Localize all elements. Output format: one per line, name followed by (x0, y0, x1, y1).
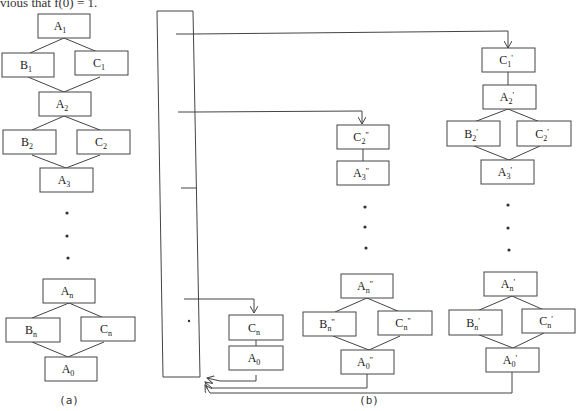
node-A0-b: A0 (229, 346, 283, 370)
diagram-a: A1 B1 C1 A2 B2 C2 A3 A (2, 14, 135, 407)
svg-text:B2': B2' (464, 127, 478, 143)
ellipsis-dot (65, 234, 68, 237)
node-An: An (43, 279, 95, 303)
ellipsis-dot (65, 211, 68, 214)
svg-text:Bn': Bn' (466, 316, 480, 332)
ellipsis-dot (507, 248, 510, 251)
node-A0: A0 (45, 357, 97, 381)
node-B1: B1 (2, 53, 54, 77)
node-Cn-doubleprime: Cn'' (378, 311, 432, 335)
node-Bn-doubleprime: Bn'' (303, 312, 356, 336)
ellipsis-dot (363, 225, 366, 228)
node-B2: B2 (3, 130, 56, 154)
node-A3: A3 (40, 168, 93, 192)
svg-text:Cn': Cn' (539, 314, 553, 330)
ellipsis-dot (66, 256, 69, 259)
svg-text:A2': A2' (500, 90, 515, 106)
node-Bn-prime: Bn' (449, 310, 502, 335)
ellipsis-dot (506, 226, 509, 229)
svg-text:An': An' (501, 277, 516, 293)
node-Bn: Bn (6, 318, 60, 342)
node-C2-prime: C2' (517, 121, 571, 146)
node-C2: C2 (77, 130, 130, 154)
flow-diagram: A1 B1 C1 A2 B2 C2 A3 A (0, 0, 578, 411)
svg-text:A0': A0' (503, 353, 518, 369)
node-An-doubleprime: An'' (341, 274, 393, 298)
ellipsis-dot (506, 203, 509, 206)
node-C1-prime: C1' (482, 48, 535, 72)
node-A3-prime: A3' (481, 160, 534, 184)
return-arrow-1 (207, 375, 256, 381)
node-Cn-prime: Cn' (522, 309, 575, 333)
svg-text:C2': C2' (535, 127, 549, 143)
node-A2-prime: A2' (483, 85, 536, 109)
node-A2: A2 (39, 92, 91, 116)
caption-b: (b) (359, 394, 379, 407)
branch-arrow-1 (193, 31, 508, 48)
node-B2-prime: B2' (447, 121, 500, 146)
node-Cn: Cn (81, 317, 135, 341)
return-arrow-3 (205, 372, 512, 393)
branch-arrow-n (200, 299, 254, 313)
svg-text:C1': C1' (499, 53, 513, 69)
dispatcher-box (157, 11, 200, 377)
node-A0-prime: A0' (486, 348, 539, 372)
node-A0-doubleprime: A0'' (341, 350, 394, 374)
dispatcher-dot (188, 320, 190, 322)
svg-text:A3': A3' (498, 165, 513, 181)
node-An-prime: An' (484, 272, 537, 296)
branch-arrow-2 (195, 111, 362, 124)
caption-a: (a) (59, 394, 79, 407)
node-C2-doubleprime: C2'' (337, 125, 389, 149)
ellipsis-dot (363, 205, 366, 208)
node-Cn-b: Cn (229, 315, 283, 340)
node-A1: A1 (38, 14, 90, 38)
node-C1: C1 (75, 51, 128, 75)
node-A3-doubleprime: A3'' (337, 161, 389, 185)
diagram-b: Cn A0 C2'' A3'' An'' Bn'' (157, 11, 575, 407)
ellipsis-dot (364, 246, 367, 249)
